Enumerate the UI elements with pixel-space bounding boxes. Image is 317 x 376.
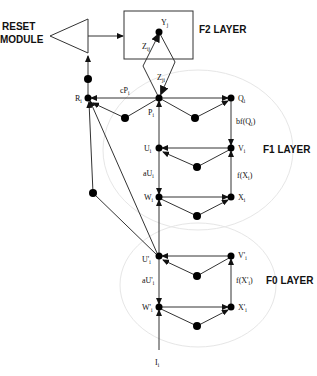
node-v: [228, 145, 235, 152]
label-v0: V'i: [238, 251, 247, 261]
label-cp: cPi: [120, 86, 130, 96]
label-fx: f(Xi): [237, 171, 253, 181]
label-q: Qi: [238, 94, 246, 104]
zji-path: [159, 32, 175, 94]
node-vu-mid: [193, 163, 201, 171]
reset-label-2: MODULE: [0, 34, 44, 45]
node-p: [156, 95, 163, 102]
label-w: Wi: [144, 193, 154, 203]
node-left-mid: [89, 189, 97, 197]
node-u: [156, 145, 163, 152]
node-x: [228, 194, 235, 201]
label-fx0: f(X'i): [236, 276, 253, 286]
node-wx-mid: [193, 212, 201, 220]
f0-layer-label: F0 LAYER: [266, 275, 314, 286]
node-r: [85, 95, 92, 102]
art-network-diagram: RESET MODULE F2 LAYER F1 LAYER F0 LAYER …: [0, 0, 317, 376]
label-au: aUi: [143, 169, 154, 179]
label-p: Pi: [148, 108, 154, 118]
label-bfq: bf(Qi): [236, 117, 256, 127]
label-zij: Zij: [142, 42, 150, 52]
u0-r-inhibit-path: [89, 102, 157, 255]
reset-module-triangle: [50, 19, 88, 53]
node-w0x0-mid: [193, 322, 201, 330]
label-u: Ui: [144, 144, 152, 154]
reset-label-1: RESET: [2, 21, 35, 32]
label-zji: Zji: [157, 73, 165, 83]
node-v0u0-mid: [193, 272, 201, 280]
f1-layer-label: F1 LAYER: [263, 144, 311, 155]
label-w0: W'i: [142, 303, 153, 313]
diagram-svg: RESET MODULE F2 LAYER F1 LAYER F0 LAYER …: [0, 0, 317, 376]
node-q: [228, 95, 235, 102]
node-w0: [156, 304, 163, 311]
node-pq-mid: [191, 114, 199, 122]
label-u0: U'i: [142, 255, 151, 265]
label-input: Ii: [155, 358, 160, 368]
f2-layer-label: F2 LAYER: [199, 24, 247, 35]
node-u0: [156, 253, 163, 260]
label-x0: X'i: [238, 303, 247, 313]
label-au0: aU'i: [142, 276, 155, 286]
node-v0: [228, 253, 235, 260]
node-pr-mid: [121, 114, 129, 122]
node-x0: [228, 304, 235, 311]
label-r: Ri: [75, 94, 82, 104]
node-r-upper: [84, 75, 92, 83]
label-x: Xi: [238, 193, 246, 203]
node-y: [156, 29, 163, 36]
node-w: [156, 194, 163, 201]
label-y: Yj: [161, 18, 169, 28]
label-v: Vi: [238, 144, 246, 154]
